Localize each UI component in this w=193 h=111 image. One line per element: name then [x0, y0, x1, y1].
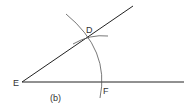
label-f: F [103, 86, 109, 96]
ray-ed [22, 6, 133, 82]
arc-large [66, 14, 102, 98]
label-e: E [13, 78, 19, 88]
caption: (b) [50, 93, 61, 103]
construction-diagram: D E F (b) [0, 0, 193, 111]
arc-small [73, 36, 108, 44]
label-d: D [86, 25, 93, 35]
